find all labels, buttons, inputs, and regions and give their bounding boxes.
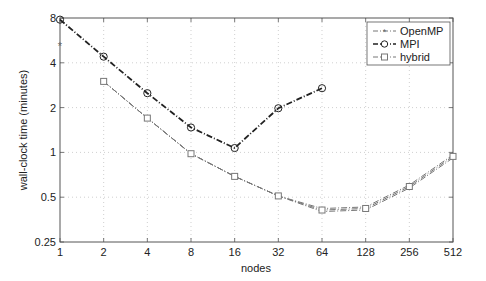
chart: 1248163264128256512 0.250.51248 nodes wa… — [0, 0, 486, 281]
x-tick-label: 1 — [57, 246, 63, 258]
y-axis-label: wall-clock time (minutes) — [17, 70, 29, 191]
legend: * OpenMP MPI hybrid — [367, 22, 450, 65]
square-marker-icon — [144, 115, 150, 121]
square-marker-icon — [363, 205, 369, 211]
x-tick-label: 128 — [356, 246, 374, 258]
y-tick-label: 2 — [50, 102, 56, 114]
square-marker-icon — [101, 78, 107, 84]
square-marker-icon — [406, 184, 412, 190]
x-tick-label: 4 — [144, 246, 150, 258]
y-tick-label: 0.25 — [35, 236, 56, 248]
asterisk-marker-icon: * — [383, 27, 387, 37]
x-tick-label: 256 — [400, 246, 418, 258]
square-marker-icon — [319, 207, 325, 213]
y-tick-label: 1 — [50, 146, 56, 158]
series-mpi — [56, 16, 325, 152]
x-tick-label: 8 — [188, 246, 194, 258]
x-tick-label: 2 — [101, 246, 107, 258]
x-tick-label: 32 — [272, 246, 284, 258]
legend-label-mpi: MPI — [400, 38, 420, 50]
asterisk-marker-icon: * — [58, 40, 63, 52]
legend-label-hybrid: hybrid — [400, 51, 430, 63]
x-tick-label: 16 — [229, 246, 241, 258]
legend-item-openmp: * OpenMP — [373, 25, 443, 37]
x-axis-label: nodes — [241, 262, 271, 274]
y-tick-label: 8 — [50, 12, 56, 24]
legend-label-openmp: OpenMP — [400, 25, 443, 37]
series-openmp: * — [58, 40, 63, 52]
circle-marker-icon — [381, 41, 387, 47]
square-marker-icon — [275, 193, 281, 199]
x-tick-label: 64 — [316, 246, 328, 258]
square-marker-icon — [188, 151, 194, 157]
y-tick-label: 0.5 — [41, 191, 56, 203]
x-tick-label: 512 — [444, 246, 462, 258]
square-marker-icon — [382, 54, 388, 60]
square-marker-icon — [232, 173, 238, 179]
y-tick-label: 4 — [50, 57, 56, 69]
square-marker-icon — [450, 153, 456, 159]
